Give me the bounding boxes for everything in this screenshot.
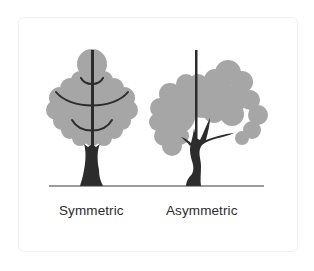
symmetric-tree-icon	[46, 49, 138, 186]
asymmetric-label: Asymmetric	[166, 203, 238, 218]
asymmetric-canopy	[149, 60, 268, 156]
symmetric-label: Symmetric	[59, 203, 124, 218]
symmetric-trunk	[80, 144, 103, 186]
asymmetric-leader	[195, 50, 198, 140]
asymmetric-tree-icon	[149, 50, 268, 186]
symmetric-leader	[91, 50, 94, 150]
asymmetric-trunk	[186, 118, 234, 186]
tree-diagram	[0, 0, 314, 271]
